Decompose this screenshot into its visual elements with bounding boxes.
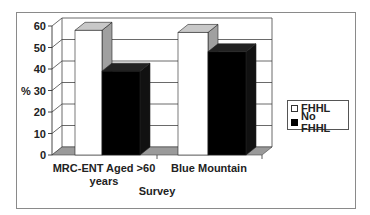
bar-fhhl [75, 30, 102, 155]
legend-swatch-fhhl [291, 105, 298, 112]
legend-item-no-fhhl: No FHHL [288, 115, 348, 129]
bar-fhhl [178, 32, 208, 155]
gridline-side [52, 83, 62, 91]
y-tick-label: 40 [34, 63, 46, 75]
gridline-side [52, 61, 62, 69]
y-tick-label: 50 [34, 42, 46, 54]
bar-side-face [140, 63, 150, 155]
legend-swatch-no-fhhl [291, 119, 298, 126]
gridline-side [52, 126, 62, 134]
y-tick-label: 20 [34, 106, 46, 118]
x-category-label: years [90, 175, 119, 187]
legend: FHHL No FHHL [287, 100, 349, 130]
bar-no-fhhl [102, 71, 140, 155]
x-axis-title: Survey [139, 185, 177, 197]
legend-label-no-fhhl: No FHHL [301, 110, 348, 134]
bar-side-face [246, 44, 256, 155]
y-tick-label: 10 [34, 128, 46, 140]
x-category-label: MRC-ENT Aged >60 [53, 162, 156, 174]
y-tick-label: 0 [40, 149, 46, 161]
gridline-side [52, 40, 62, 48]
x-category-label: Blue Mountain [171, 162, 247, 174]
y-tick-label: 60 [34, 20, 46, 32]
bar-no-fhhl [208, 52, 246, 155]
gridline-side [52, 104, 62, 112]
y-tick-label: 30 [34, 85, 46, 97]
y-axis-title: % [21, 85, 31, 97]
gridline-side [52, 18, 62, 26]
